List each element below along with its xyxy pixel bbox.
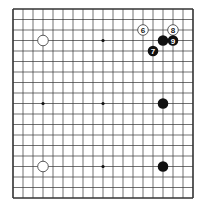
star-point	[101, 39, 104, 42]
black-stone-9: 9	[168, 35, 179, 46]
star-point	[101, 102, 104, 105]
move-number: 7	[151, 47, 156, 56]
move-number: 8	[171, 26, 176, 35]
star-point	[101, 165, 104, 168]
white-stone	[38, 35, 49, 46]
white-stone	[38, 161, 49, 172]
black-stone	[158, 161, 169, 172]
black-stone-7: 7	[148, 46, 159, 57]
white-stone-6: 6	[138, 25, 149, 36]
black-stone	[158, 35, 169, 46]
black-stone	[158, 98, 169, 109]
move-number: 9	[171, 37, 176, 46]
move-number: 6	[141, 26, 146, 35]
stones-layer: 6789	[38, 25, 179, 172]
white-stone-8: 8	[168, 25, 179, 36]
go-board-diagram: 6789	[0, 0, 201, 207]
star-point	[41, 102, 44, 105]
